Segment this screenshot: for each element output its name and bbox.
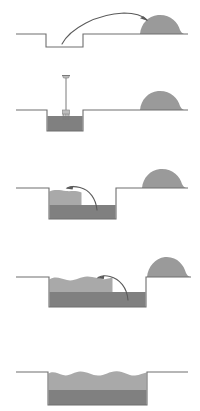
spoil-mound-shape [142, 169, 186, 188]
figure-root: Trench backfilling sequence Five-stage c… [0, 0, 200, 411]
ground-and-trench-profile [16, 110, 188, 131]
backfill-light-layer [50, 190, 82, 205]
trench-backfill-diagram [0, 0, 200, 411]
spoil-mound-shape [140, 91, 184, 110]
spoil-mound-shape [140, 15, 184, 34]
soil-transfer-arrow-head [140, 16, 148, 21]
panel-5 [16, 371, 188, 405]
digging-fork-icon [62, 76, 70, 121]
panel-3 [16, 169, 188, 219]
backfill-light-layer [49, 371, 147, 390]
fork-head [63, 110, 70, 114]
spoil-mound-shape [147, 257, 190, 277]
panel-1 [16, 13, 188, 47]
panel-2 [16, 76, 188, 132]
backfill-dark-layer [50, 205, 116, 219]
backfill-dark-layer [50, 292, 146, 307]
backfill-dark-layer [49, 390, 147, 405]
soil-transfer-arrow [62, 13, 147, 44]
panel-4 [16, 257, 191, 307]
ground-and-trench-profile [16, 34, 188, 47]
